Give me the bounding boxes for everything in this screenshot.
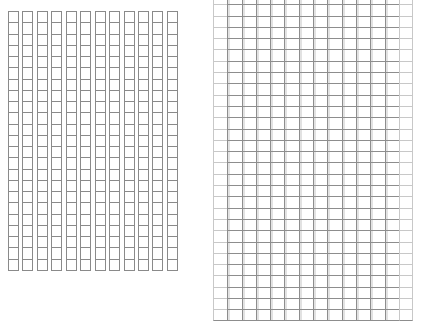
grid-cell <box>313 208 327 219</box>
grid-cell <box>227 83 241 94</box>
grid-cell <box>167 259 178 271</box>
grid-cell <box>313 83 327 94</box>
grid-cell <box>284 27 298 38</box>
grid-cell <box>227 140 241 151</box>
right-cell-grid <box>213 0 413 321</box>
grid-cell <box>299 38 313 49</box>
grid-cell <box>313 298 327 309</box>
grid-cell <box>327 275 341 286</box>
grid-cell <box>313 72 327 83</box>
grid-cell <box>299 196 313 207</box>
grid-cell <box>227 129 241 140</box>
grid-cell <box>270 298 284 309</box>
grid-cell <box>327 287 341 298</box>
grid-cell <box>256 4 270 15</box>
grid-cell <box>342 253 356 264</box>
grid-cell <box>124 259 135 271</box>
grid-cell <box>356 38 370 49</box>
grid-cell <box>227 151 241 162</box>
grid-cell <box>256 264 270 275</box>
grid-cell <box>242 174 256 185</box>
grid-cell <box>370 106 384 117</box>
grid-cell <box>227 253 241 264</box>
grid-cell <box>399 129 413 140</box>
grid-cell <box>270 140 284 151</box>
grid-cell <box>242 253 256 264</box>
grid-cell <box>299 129 313 140</box>
grid-cell <box>370 16 384 27</box>
grid-cell <box>385 230 399 241</box>
grid-cell <box>51 259 62 271</box>
grid-cell <box>299 16 313 27</box>
grid-cell <box>299 253 313 264</box>
grid-cell <box>356 174 370 185</box>
grid-cell <box>270 72 284 83</box>
grid-cell <box>284 61 298 72</box>
grid-cell <box>284 151 298 162</box>
grid-cell <box>256 309 270 320</box>
grid-cell <box>356 298 370 309</box>
grid-cell <box>299 95 313 106</box>
grid-cell <box>356 185 370 196</box>
grid-cell <box>242 264 256 275</box>
grid-cell <box>213 117 227 128</box>
grid-cell <box>284 38 298 49</box>
grid-cell <box>270 253 284 264</box>
grid-cell <box>284 16 298 27</box>
grid-cell <box>242 208 256 219</box>
grid-cell <box>313 129 327 140</box>
grid-cell <box>242 27 256 38</box>
grid-cell <box>270 287 284 298</box>
grid-cell <box>256 208 270 219</box>
grid-cell <box>256 230 270 241</box>
grid-cell <box>299 174 313 185</box>
grid-cell <box>213 174 227 185</box>
grid-cell <box>227 16 241 27</box>
grid-cell <box>385 298 399 309</box>
grid-cell <box>385 106 399 117</box>
grid-cell <box>227 219 241 230</box>
grid-cell <box>342 230 356 241</box>
grid-cell <box>256 140 270 151</box>
grid-cell <box>270 196 284 207</box>
grid-cell <box>213 196 227 207</box>
grid-cell <box>227 298 241 309</box>
grid-cell <box>399 140 413 151</box>
grid-cell <box>227 38 241 49</box>
grid-cell <box>313 162 327 173</box>
grid-cell <box>399 106 413 117</box>
grid-cell <box>284 264 298 275</box>
grid-cell <box>256 83 270 94</box>
grid-cell <box>313 38 327 49</box>
grid-cell <box>342 140 356 151</box>
grid-cell <box>342 208 356 219</box>
grid-cell <box>313 16 327 27</box>
grid-cell <box>270 208 284 219</box>
grid-cell <box>284 95 298 106</box>
grid-cell <box>138 259 149 271</box>
grid-cell <box>242 4 256 15</box>
grid-cell <box>327 49 341 60</box>
grid-cell <box>399 16 413 27</box>
grid-cell <box>399 287 413 298</box>
grid-cell <box>370 129 384 140</box>
grid-cell <box>385 219 399 230</box>
grid-cell <box>399 298 413 309</box>
grid-cell <box>284 219 298 230</box>
grid-cell <box>242 219 256 230</box>
grid-cell <box>213 140 227 151</box>
grid-cell <box>313 61 327 72</box>
grid-cell <box>370 95 384 106</box>
grid-cell <box>284 49 298 60</box>
grid-cell <box>342 264 356 275</box>
grid-cell <box>299 264 313 275</box>
grid-cell <box>342 129 356 140</box>
grid-cell <box>399 83 413 94</box>
grid-cell <box>370 230 384 241</box>
grid-cell <box>227 95 241 106</box>
grid-cell <box>327 4 341 15</box>
grid-cell <box>399 4 413 15</box>
grid-cell <box>370 208 384 219</box>
grid-cell <box>399 253 413 264</box>
grid-cell <box>270 83 284 94</box>
